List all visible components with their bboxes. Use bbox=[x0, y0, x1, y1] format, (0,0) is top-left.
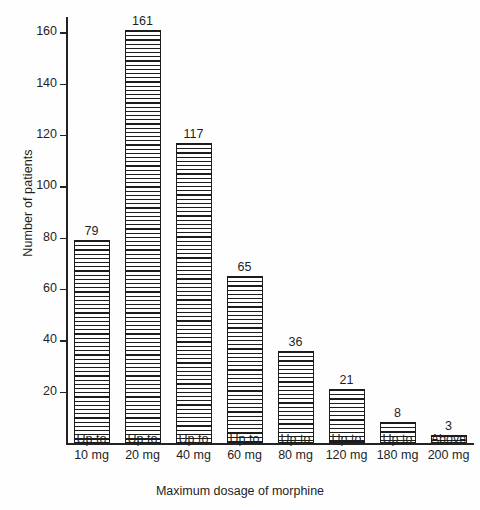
x-category-label-line: 180 mg bbox=[372, 448, 423, 464]
bar-value-label: 8 bbox=[394, 406, 401, 420]
x-category-label-line: Up to bbox=[372, 432, 423, 448]
y-tick-mark bbox=[60, 84, 67, 85]
y-tick-mark bbox=[60, 340, 67, 341]
bar-value-label: 161 bbox=[132, 14, 153, 28]
x-category-label-line: 200 mg bbox=[423, 448, 474, 464]
y-tick-label: 100 bbox=[36, 178, 57, 192]
bar-value-label: 65 bbox=[238, 260, 252, 274]
bar-value-label: 79 bbox=[85, 224, 99, 238]
y-tick-label: 120 bbox=[36, 127, 57, 141]
bar-value-label: 36 bbox=[289, 335, 303, 349]
x-category-label-line: 60 mg bbox=[219, 448, 270, 464]
x-category-label-line: Up to bbox=[321, 432, 372, 448]
y-axis-title: Number of patients bbox=[21, 123, 35, 283]
x-category-label-line: Up to bbox=[117, 432, 168, 448]
bar: 65 bbox=[227, 276, 263, 443]
bar: 36 bbox=[278, 351, 314, 443]
bar-value-label: 117 bbox=[184, 127, 204, 141]
y-tick-mark bbox=[60, 135, 67, 136]
x-category-label-line: Above bbox=[423, 432, 474, 448]
x-category-label-line: 10 mg bbox=[66, 448, 117, 464]
y-tick-label: 60 bbox=[43, 281, 57, 295]
x-category-label-line: 80 mg bbox=[270, 448, 321, 464]
bar-chart-figure: Number of patients 20406080100120140160 … bbox=[0, 0, 480, 510]
x-category-label-line: 20 mg bbox=[117, 448, 168, 464]
y-tick-label: 20 bbox=[43, 384, 57, 398]
y-tick-label: 160 bbox=[36, 24, 57, 38]
x-category-label-line: Up to bbox=[168, 432, 219, 448]
y-tick-label: 140 bbox=[36, 76, 57, 90]
x-category-label: Up to20 mg bbox=[117, 432, 168, 463]
x-category-label: Up to40 mg bbox=[168, 432, 219, 463]
y-axis-line bbox=[66, 17, 68, 443]
x-category-label-line: 120 mg bbox=[321, 448, 372, 464]
x-category-label: Up to60 mg bbox=[219, 432, 270, 463]
y-tick-mark bbox=[60, 32, 67, 33]
x-category-label: Up to80 mg bbox=[270, 432, 321, 463]
x-axis-title: Maximum dosage of morphine bbox=[0, 484, 480, 498]
y-tick-mark bbox=[60, 392, 67, 393]
y-tick-label: 80 bbox=[43, 230, 57, 244]
bar: 79 bbox=[74, 240, 110, 443]
x-category-label: Up to10 mg bbox=[66, 432, 117, 463]
x-category-label-line: Up to bbox=[219, 432, 270, 448]
x-category-label: Above200 mg bbox=[423, 432, 474, 463]
bar: 161 bbox=[125, 30, 161, 443]
x-category-label-line: Up to bbox=[66, 432, 117, 448]
x-category-label-line: Up to bbox=[270, 432, 321, 448]
plot-area: 20406080100120140160 7916111765362183 bbox=[66, 17, 474, 443]
bar-value-label: 21 bbox=[340, 373, 354, 387]
y-tick-mark bbox=[60, 289, 67, 290]
x-category-label: Up to120 mg bbox=[321, 432, 372, 463]
bar: 117 bbox=[176, 143, 212, 443]
x-category-label: Up to180 mg bbox=[372, 432, 423, 463]
y-tick-mark bbox=[60, 186, 67, 187]
x-category-label-line: 40 mg bbox=[168, 448, 219, 464]
y-tick-label: 40 bbox=[43, 332, 57, 346]
y-tick-mark bbox=[60, 238, 67, 239]
